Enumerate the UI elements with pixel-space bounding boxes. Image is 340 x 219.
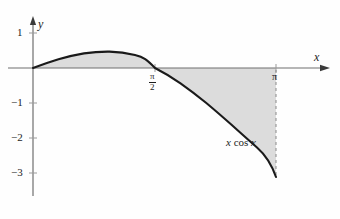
function-label-cos: cos bbox=[234, 136, 249, 148]
fraction-numerator-pi: π bbox=[149, 72, 156, 81]
curve-function-label: x cos x bbox=[226, 137, 256, 148]
y-tick-label-minus-1: −1 bbox=[11, 97, 23, 108]
y-tick-label-1: 1 bbox=[17, 27, 23, 38]
x-tick-label-pi-over-2: π 2 bbox=[149, 72, 156, 93]
x-axis-arrowhead bbox=[320, 65, 330, 72]
x-tick-label-pi: π bbox=[272, 72, 277, 82]
y-tick-label-minus-3: −3 bbox=[11, 167, 23, 178]
y-tick-label-minus-2: −2 bbox=[11, 132, 23, 143]
fraction-denominator-2: 2 bbox=[149, 83, 156, 92]
function-label-var-second: x bbox=[251, 136, 256, 148]
plot-canvas bbox=[0, 0, 340, 219]
figure-plot-x-cos-x: 1 −1 −2 −3 π 2 π y x x cos x bbox=[0, 0, 340, 219]
y-axis-label: y bbox=[38, 18, 43, 30]
y-axis-arrowhead bbox=[30, 16, 36, 25]
x-axis-label: x bbox=[314, 51, 319, 63]
